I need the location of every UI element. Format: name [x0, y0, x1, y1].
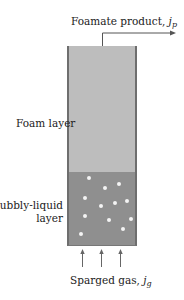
foam-layer-label: Foam layer [16, 118, 75, 129]
gas-bubble [99, 204, 103, 208]
bubbly-liquid-label-line1: Bubbly-liquid [0, 200, 63, 211]
product-arrowhead-icon [170, 31, 176, 36]
gas-bubble [121, 227, 125, 231]
gas-bubble [87, 176, 91, 180]
product-outflow-arrow [103, 33, 173, 46]
gas-bubble [83, 214, 87, 218]
gas-bubble [117, 182, 121, 186]
gas-bubble [125, 199, 129, 203]
sparged-gas-label: Sparged gas, jg [70, 275, 152, 288]
gas-arrowhead-icon [99, 249, 103, 254]
gas-bubble [107, 218, 111, 222]
bubbly-liquid-label-line2: layer [36, 213, 63, 224]
gas-arrowhead-icon [80, 249, 84, 254]
gas-bubble [79, 232, 83, 236]
flotation-column [67, 46, 137, 246]
foam-layer-region [69, 46, 135, 172]
bubbly-liquid-region [69, 172, 135, 245]
sparged-gas-text: Sparged gas, [70, 274, 143, 286]
gas-bubble [103, 186, 107, 190]
gas-bubble [83, 196, 87, 200]
gas-arrowhead-icon [118, 249, 122, 254]
gas-subscript: g [147, 279, 152, 288]
gas-bubble [113, 201, 117, 205]
gas-bubble [129, 217, 133, 221]
gas-inflow-arrows [83, 252, 121, 267]
